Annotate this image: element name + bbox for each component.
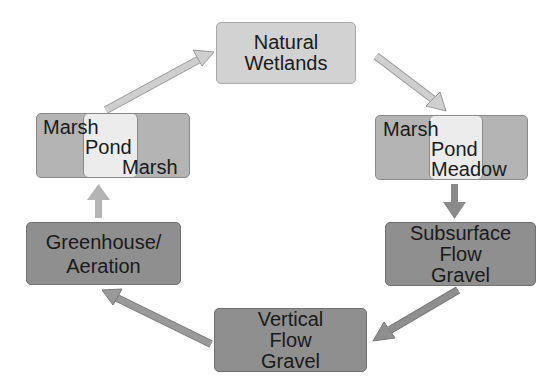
node-label-line: Aeration [66, 254, 141, 278]
node-marsh-pond-marsh: Marsh Pond Marsh [36, 113, 190, 178]
node-natural-wetlands: Natural Wetlands [216, 22, 356, 84]
node-label-line: Subsurface [410, 223, 511, 244]
arrow-meadow-to-subsurface [443, 184, 466, 219]
node-label-line: Natural [254, 32, 318, 53]
label-marsh-right: Marsh [122, 157, 178, 177]
arrow-greenhouse-to-marsh [87, 184, 110, 218]
node-label-line: Gravel [431, 265, 490, 286]
node-greenhouse-aeration: Greenhouse/ Aeration [26, 222, 181, 285]
arrow-marsh-to-natural-wetlands [106, 50, 214, 110]
arrow-subsurface-to-vertical [373, 290, 458, 341]
node-label-line: Wetlands [244, 53, 327, 74]
node-label-line: Flow [269, 330, 311, 351]
arrow-natural-wetlands-to-meadow [376, 56, 446, 111]
label-meadow: Meadow [431, 159, 507, 179]
node-label-line: Flow [439, 244, 481, 265]
node-marsh-pond-meadow: Marsh Pond Meadow [375, 115, 528, 180]
arrow-vertical-to-greenhouse [102, 289, 211, 344]
node-subsurface-flow-gravel: Subsurface Flow Gravel [385, 222, 536, 286]
node-label-line: Vertical [258, 309, 324, 330]
label-marsh-left: Marsh [43, 117, 99, 137]
label-pond: Pond [431, 139, 478, 159]
node-label-line: Gravel [261, 351, 320, 372]
label-marsh: Marsh [383, 119, 439, 139]
node-vertical-flow-gravel: Vertical Flow Gravel [214, 308, 367, 372]
label-pond: Pond [85, 137, 132, 157]
node-label-line: Greenhouse/ [46, 230, 162, 254]
